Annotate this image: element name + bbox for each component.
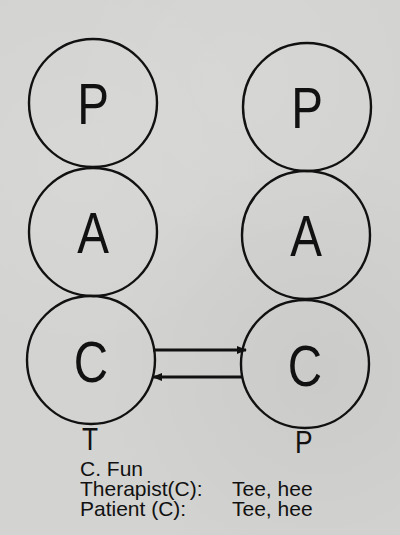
parent-letter: P: [77, 72, 109, 137]
adult-letter: A: [290, 204, 322, 269]
caption-line-therapist: Therapist(C):Tee, hee: [80, 479, 313, 499]
therapist-ego-states: P A C: [27, 39, 157, 424]
therapist-child-state: C: [27, 296, 155, 424]
therapist-parent-state: P: [29, 39, 157, 167]
transaction-caption: C. Fun Therapist(C):Tee, hee Patient (C)…: [80, 459, 313, 519]
transaction-arrows: [153, 350, 246, 377]
patient-parent-state: P: [243, 43, 371, 171]
patient-adult-state: A: [242, 171, 370, 299]
patient-ego-states: P A C: [241, 43, 371, 428]
patient-label: P: [295, 427, 313, 458]
parent-letter: P: [291, 76, 323, 141]
therapist-adult-state: A: [29, 168, 157, 296]
ego-state-diagram: P A C P A C: [0, 0, 400, 535]
remark-text: Tee, hee: [232, 479, 313, 499]
speaker-label: Therapist(C):: [80, 479, 232, 499]
patient-child-state: C: [241, 300, 369, 428]
child-letter: C: [288, 334, 322, 399]
remark-text: Tee, hee: [232, 499, 313, 519]
adult-letter: A: [77, 201, 109, 266]
child-letter: C: [74, 330, 108, 395]
speaker-label: Patient (C):: [80, 499, 232, 519]
caption-line-patient: Patient (C):Tee, hee: [80, 499, 313, 519]
caption-title: C. Fun: [80, 459, 313, 479]
therapist-label: T: [82, 424, 98, 455]
